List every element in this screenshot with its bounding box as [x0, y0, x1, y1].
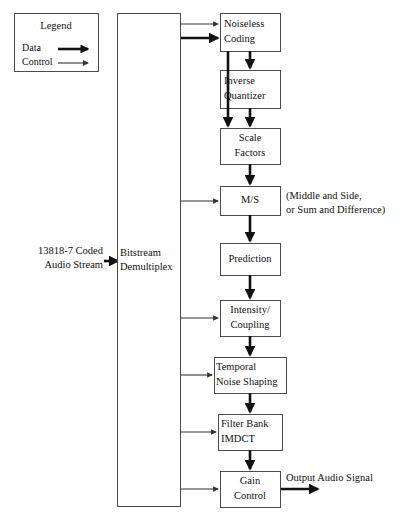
block-demux-label-line2: Demultiplex	[120, 261, 173, 272]
block-temporal-noise-shaping-label-line1: Temporal	[216, 361, 256, 372]
block-filter-bank-imdct[interactable]: Filter Bank IMDCT	[219, 415, 283, 451]
block-scale-factors-label-line1: Scale	[239, 132, 262, 143]
block-ms[interactable]: M/S	[221, 187, 281, 216]
ms-note-line1: (Middle and Side,	[286, 190, 362, 202]
block-inverse-quantizer-label-line2: Quantizer	[224, 90, 266, 101]
block-noiseless-coding-label-line2: Coding	[224, 33, 256, 44]
block-temporal-noise-shaping[interactable]: Temporal Noise Shaping	[215, 358, 287, 394]
block-prediction[interactable]: Prediction	[221, 244, 281, 276]
legend-title: Legend	[40, 20, 72, 31]
block-intensity-coupling-label-line2: Coupling	[230, 319, 270, 330]
ms-note-line2: or Sum and Difference)	[286, 204, 386, 216]
block-demux-rect[interactable]	[118, 14, 181, 507]
block-intensity-coupling-label-line1: Intensity/	[230, 304, 270, 315]
legend-entry-label-data: Data	[22, 42, 41, 53]
block-prediction-label: Prediction	[228, 253, 272, 264]
legend-entry-label-control: Control	[22, 56, 53, 67]
input-stream-label-line1: 13818-7 Coded	[38, 245, 104, 256]
block-scale-factors-label-line2: Factors	[235, 147, 266, 158]
annotations-layer: (Middle and Side, or Sum and Difference)…	[286, 190, 386, 483]
input-stream-group: 13818-7 Coded Audio Stream	[38, 245, 118, 270]
block-gain-control-label-line1: Gain	[240, 475, 261, 486]
block-demux[interactable]: Bitstream Demultiplex	[118, 14, 181, 507]
block-demux-label-line1: Bitstream	[120, 247, 161, 258]
block-noiseless-coding[interactable]: Noiseless Coding	[221, 14, 281, 52]
block-gain-control-label-line2: Control	[234, 490, 266, 501]
block-gain-control[interactable]: Gain Control	[221, 472, 281, 508]
block-noiseless-coding-label-line1: Noiseless	[224, 18, 264, 29]
input-stream-label-line2: Audio Stream	[44, 259, 103, 270]
aac-decoder-block-diagram: Legend Data Control 13818-7 Coded Audio …	[0, 0, 407, 520]
block-temporal-noise-shaping-label-line2: Noise Shaping	[216, 376, 278, 387]
legend: Legend Data Control	[15, 14, 99, 72]
blocks-layer: Bitstream Demultiplex Noiseless Coding I…	[118, 14, 287, 508]
block-filter-bank-imdct-label-line2: IMDCT	[221, 433, 255, 444]
block-intensity-coupling[interactable]: Intensity/ Coupling	[221, 301, 281, 337]
diagram-canvas: Legend Data Control 13818-7 Coded Audio …	[0, 0, 407, 520]
block-filter-bank-imdct-label-line1: Filter Bank	[221, 418, 269, 429]
block-scale-factors[interactable]: Scale Factors	[221, 129, 281, 165]
block-inverse-quantizer[interactable]: Inverse Quantizer	[221, 71, 281, 109]
block-ms-label: M/S	[241, 194, 259, 205]
output-audio-signal-label: Output Audio Signal	[286, 472, 373, 483]
